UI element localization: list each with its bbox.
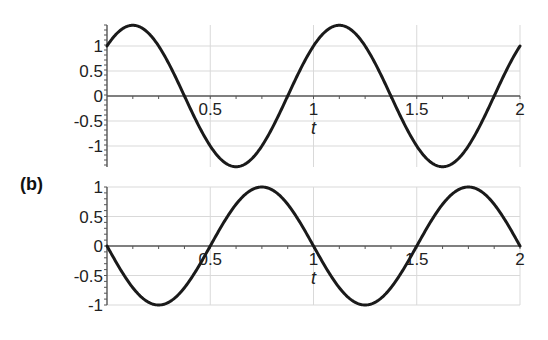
plot-bottom: 10.50-0.5-10.511.52t xyxy=(74,178,525,315)
plot-top: 10.50-0.5-10.511.52t xyxy=(74,25,525,167)
x-tick-label: 1 xyxy=(309,100,318,119)
y-tick-label: 0 xyxy=(94,237,103,256)
panel-label: (b) xyxy=(20,174,43,194)
x-tick-label: 1.5 xyxy=(405,100,429,119)
figure: 10.50-0.5-10.511.52t 10.50-0.5-10.511.52… xyxy=(0,0,548,340)
y-tick-label: 0.5 xyxy=(79,62,103,81)
y-tick-label: -1 xyxy=(88,137,103,156)
y-tick-label: 1 xyxy=(94,178,103,197)
x-tick-label: 0.5 xyxy=(198,100,222,119)
y-tick-label: -0.5 xyxy=(74,112,103,131)
x-axis-label: t xyxy=(311,268,317,288)
y-tick-label: 0.5 xyxy=(79,208,103,227)
y-tick-label: 1 xyxy=(94,37,103,56)
y-tick-label: 0 xyxy=(94,87,103,106)
y-tick-label: -1 xyxy=(88,296,103,315)
x-tick-label: 2 xyxy=(515,250,524,269)
y-tick-label: -0.5 xyxy=(74,267,103,286)
x-tick-label: 2 xyxy=(515,100,524,119)
